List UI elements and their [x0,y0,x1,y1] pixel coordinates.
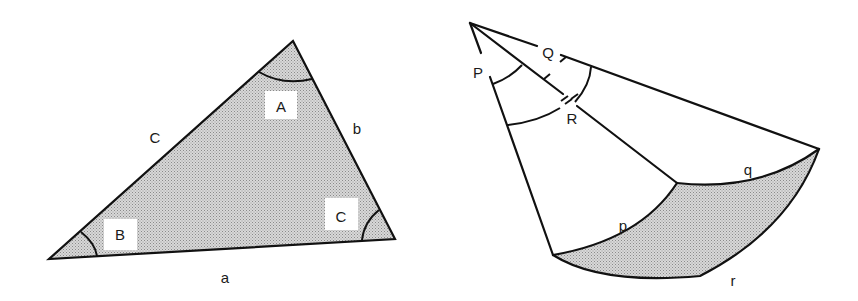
angle-tick-R-2 [565,99,572,104]
angle-arc-P [493,65,522,84]
arc-label-r: r [731,272,736,289]
arc-label-p: p [619,217,627,234]
side-label-b: b [353,120,361,137]
radius-to-q-vertex [470,23,537,46]
plane-triangle: A B C C b a [49,41,395,286]
radius-to-r-vertex-lower [577,106,677,183]
spherical-triangle: P Q R q p r [470,23,819,289]
angle-label-A: A [276,98,286,115]
angle-label-P: P [473,64,483,81]
angle-tick-Q-2 [544,74,550,79]
side-label-c: C [150,129,161,146]
angle-label-C: C [336,208,347,225]
spherical-triangle-fill [553,149,819,278]
radius-to-p-vertex-lower [490,77,553,255]
angle-arc-Q [575,67,591,102]
angle-tick-R-1 [561,96,568,101]
arc-label-q: q [744,161,752,178]
angle-label-B: B [115,226,125,243]
radius-to-q-vertex-lower [561,55,819,149]
angle-label-Q: Q [542,44,554,61]
angle-tick-Q-1 [560,57,566,62]
angle-label-R: R [567,110,578,127]
side-label-a: a [221,269,230,286]
trigonometry-figure: A B C C b a P Q R q p [0,0,858,301]
angle-arc-R [507,108,560,125]
